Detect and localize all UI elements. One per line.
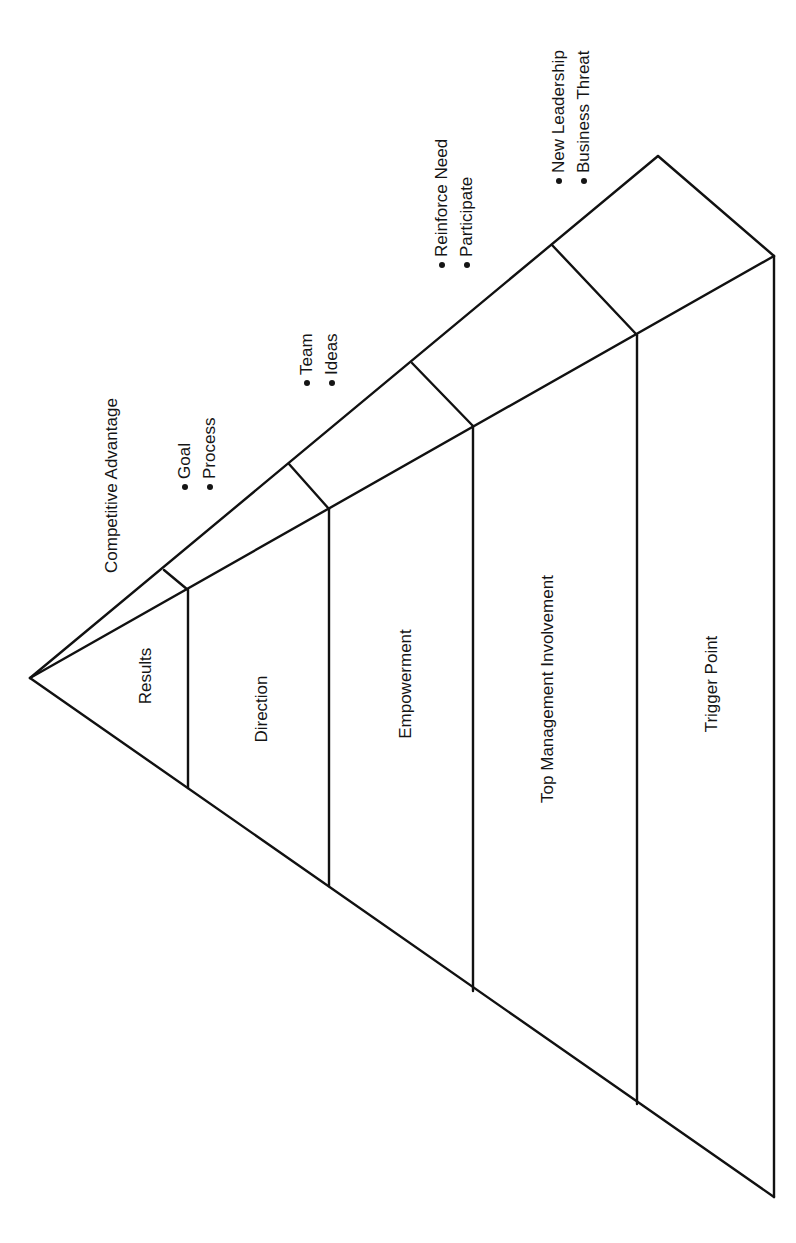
bullet-dot-icon [182,484,188,490]
bullet-item: Business Threat [571,50,596,184]
bullet-dot-icon [329,380,335,386]
bullet-item: Ideas [319,333,344,386]
bullet-dot-icon [207,484,213,490]
layer-label-direction: Direction [252,675,272,742]
bullet-item: Participate [454,139,479,268]
competitive-advantage-label: Competitive Advantage [102,398,122,573]
layer-label-top-management-involvement: Top Management Involvement [538,575,558,803]
bullets-top-management: New Leadership Business Threat [546,50,596,184]
layer-label-trigger-point: Trigger Point [702,636,722,733]
bullet-item: Process [197,418,222,490]
bullet-dot-icon [304,380,310,386]
pyramid-inner-edge [30,256,774,678]
bullet-item: Reinforce Need [429,139,454,268]
pyramid-bottom-edge [30,678,774,1197]
bullet-dot-icon [581,178,587,184]
side-connector-3 [412,363,473,426]
bullets-direction: Team Ideas [294,333,344,386]
side-connector-1 [164,570,188,590]
bullet-item: Team [294,333,319,386]
bullet-dot-icon [464,262,470,268]
side-connector-2 [289,464,329,509]
bullet-item: New Leadership [546,50,571,184]
bullet-item: Goal [172,418,197,490]
pyramid-diagram [0,0,796,1243]
layer-label-results: Results [136,648,156,705]
side-connector-5 [658,156,774,256]
bullet-dot-icon [556,178,562,184]
pyramid-outer-edge [30,156,658,678]
bullets-empowerment: Reinforce Need Participate [429,139,479,268]
layer-label-empowerment: Empowerment [396,629,416,739]
bullet-dot-icon [439,262,445,268]
bullets-results: Goal Process [172,418,222,490]
side-connector-4 [552,245,637,335]
